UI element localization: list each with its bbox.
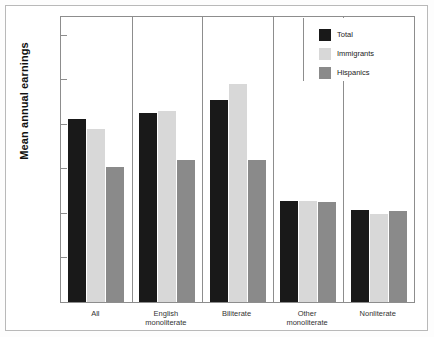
bar-immigrants-4 bbox=[370, 214, 388, 302]
x-axis-label: Othermonoliterate bbox=[272, 309, 343, 327]
bar-immigrants-0 bbox=[87, 129, 105, 302]
bar-immigrants-3 bbox=[299, 201, 317, 302]
bar-total-2 bbox=[210, 100, 228, 302]
legend-item-total: Total bbox=[319, 28, 353, 41]
x-axis-label-line: monoliterate bbox=[131, 318, 202, 327]
bar-hispanics-2 bbox=[248, 160, 266, 303]
y-axis-tick bbox=[61, 213, 67, 214]
x-axis-label-line: Other bbox=[272, 309, 343, 318]
bar-total-1 bbox=[139, 113, 157, 302]
bar-hispanics-0 bbox=[106, 167, 124, 302]
y-axis-tick bbox=[61, 79, 67, 80]
chart-legend: TotalImmigrantsHispanics bbox=[303, 18, 413, 81]
chart-figure: Mean annual earnings 0$5,000$10,000$15,0… bbox=[0, 0, 434, 337]
x-axis-label: Englishmonoliterate bbox=[131, 309, 202, 327]
bar-hispanics-1 bbox=[177, 160, 195, 303]
legend-divider bbox=[303, 18, 304, 81]
legend-item-label: Immigrants bbox=[337, 49, 374, 58]
bar-hispanics-4 bbox=[389, 211, 407, 302]
y-axis-tick bbox=[61, 257, 67, 258]
y-axis-tick bbox=[61, 302, 67, 303]
legend-item-label: Hispanics bbox=[337, 68, 370, 77]
y-axis-tick bbox=[61, 35, 67, 36]
group-separator bbox=[202, 17, 203, 302]
x-axis-label: Nonliterate bbox=[342, 309, 413, 318]
bar-immigrants-2 bbox=[229, 84, 247, 302]
bar-hispanics-3 bbox=[318, 202, 336, 302]
light-gray-swatch bbox=[319, 48, 331, 60]
legend-item-immigrants: Immigrants bbox=[319, 47, 374, 60]
x-axis-label-line: All bbox=[60, 309, 131, 318]
y-axis-tick bbox=[61, 168, 67, 169]
x-axis-label: All bbox=[60, 309, 131, 318]
bar-immigrants-1 bbox=[158, 111, 176, 302]
group-separator bbox=[132, 17, 133, 302]
x-axis-label-line: monoliterate bbox=[272, 318, 343, 327]
legend-item-hispanics: Hispanics bbox=[319, 66, 370, 79]
bar-total-3 bbox=[280, 201, 298, 302]
medium-gray-swatch bbox=[319, 67, 331, 79]
x-axis-label-line: Nonliterate bbox=[342, 309, 413, 318]
y-axis-title: Mean annual earnings bbox=[18, 16, 36, 186]
black-swatch bbox=[319, 29, 331, 41]
bar-total-4 bbox=[351, 210, 369, 302]
legend-item-label: Total bbox=[337, 30, 353, 39]
y-axis-tick bbox=[61, 124, 67, 125]
x-axis-label: Biliterate bbox=[201, 309, 272, 318]
plot-area: TotalImmigrantsHispanics bbox=[60, 16, 415, 303]
group-separator bbox=[273, 17, 274, 302]
bar-total-0 bbox=[68, 119, 86, 302]
x-axis-label-line: Biliterate bbox=[201, 309, 272, 318]
x-axis-label-line: English bbox=[131, 309, 202, 318]
